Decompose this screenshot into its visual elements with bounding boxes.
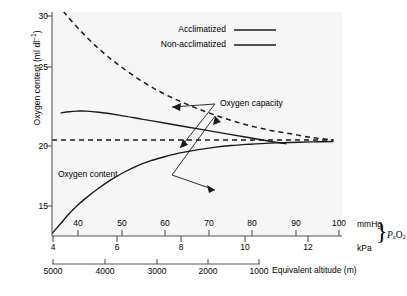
x-tick-altitude-2000: 2000 xyxy=(190,267,226,276)
x-ticks-mmhg xyxy=(78,230,339,236)
x-tick-kpa-10: 10 xyxy=(232,243,258,252)
x-tick-mmhg-80: 80 xyxy=(237,219,267,228)
x-tick-mmhg-90: 90 xyxy=(281,219,311,228)
x-tick-altitude-5000: 5000 xyxy=(35,267,71,276)
x-tick-mmhg-60: 60 xyxy=(150,219,180,228)
x-tick-altitude-3000: 3000 xyxy=(139,267,175,276)
paO2-2: 2 xyxy=(403,233,406,240)
x-tick-mmhg-50: 50 xyxy=(107,219,137,228)
chart-figure: Oxygen content (ml dl–1) 30 25 20 15 xyxy=(0,0,407,296)
axis-group-label-paO2: PaO2 xyxy=(387,230,406,240)
x-tick-altitude-4000: 4000 xyxy=(87,267,123,276)
x-tick-kpa-4: 4 xyxy=(40,243,66,252)
x-axis-title-altitude: Equivalent altitude (m) xyxy=(272,265,357,275)
axis-group-brace: } xyxy=(376,219,388,243)
x-tick-kpa-12: 12 xyxy=(295,243,321,252)
x-tick-kpa-8: 8 xyxy=(168,243,194,252)
x-tick-kpa-6: 6 xyxy=(104,243,130,252)
x-tick-mmhg-70: 70 xyxy=(194,219,224,228)
x-tick-mmhg-40: 40 xyxy=(63,219,93,228)
paO2-O: O xyxy=(396,230,403,240)
x-tick-mmhg-100: 100 xyxy=(324,219,354,228)
x-unit-kpa: kPa xyxy=(357,243,372,253)
x-ticks-altitude xyxy=(53,259,259,264)
